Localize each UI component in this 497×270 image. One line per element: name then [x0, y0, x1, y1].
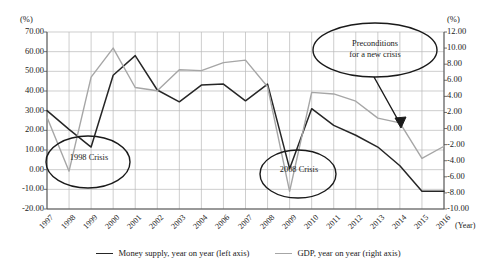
- legend-item-gdp: GDP, year on year (right axis): [275, 248, 400, 258]
- annotation-label-1998-crisis: 1998 Crisis: [52, 152, 126, 163]
- legend-swatch-money-supply: [96, 253, 113, 254]
- legend-label-gdp: GDP, year on year (right axis): [297, 248, 400, 258]
- annotation-label-2008-crisis: 2008 Crisis: [262, 164, 336, 175]
- legend-item-money-supply: Money supply, year on year (left axis): [96, 248, 249, 258]
- chart-legend: Money supply, year on year (left axis) G…: [0, 248, 497, 258]
- legend-label-money-supply: Money supply, year on year (left axis): [118, 248, 249, 258]
- annotation-preconditions-line1: Preconditions: [352, 39, 398, 48]
- annotation-label-preconditions: Preconditions for a new crisis: [322, 38, 428, 60]
- annotation-preconditions-line2: for a new crisis: [349, 50, 400, 59]
- chart-container: (%) (%) 70.0060.0050.0040.0030.0020.0010…: [0, 0, 497, 270]
- legend-swatch-gdp: [275, 253, 292, 254]
